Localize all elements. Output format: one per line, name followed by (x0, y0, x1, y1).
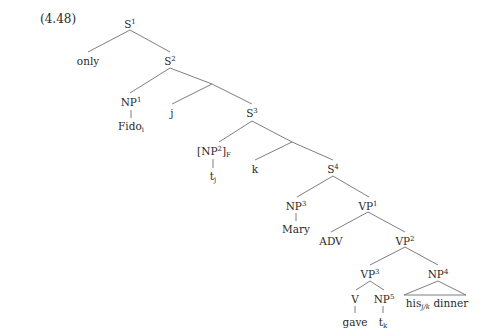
node-np1: NP1 (121, 96, 142, 108)
node-np5: NP5 (374, 293, 395, 305)
node-vp1: VP1 (358, 200, 377, 212)
node-his-dinner: hisj/k dinner (406, 297, 468, 309)
node-j: j (170, 107, 173, 119)
node-fido: Fidoi (118, 120, 144, 132)
node-vp2: VP2 (395, 235, 414, 247)
node-mary: Mary (282, 223, 310, 235)
node-v: V (351, 293, 359, 305)
node-vp3: VP3 (360, 268, 379, 280)
tree-edges (0, 0, 489, 336)
node-gave: gave (342, 316, 367, 328)
node-np4: NP4 (428, 268, 449, 280)
node-adv: ADV (319, 235, 342, 247)
node-s3: S3 (246, 107, 258, 119)
node-s4: S4 (327, 163, 339, 175)
node-np3: NP3 (286, 200, 307, 212)
node-k: k (252, 163, 258, 175)
node-np2-focus: [NP2]F (197, 145, 231, 157)
node-trace-k: tk (379, 316, 387, 328)
node-s1: S1 (124, 18, 136, 30)
node-trace-j: tj (210, 170, 216, 182)
node-only: only (77, 55, 99, 67)
node-s2: S2 (164, 55, 176, 67)
